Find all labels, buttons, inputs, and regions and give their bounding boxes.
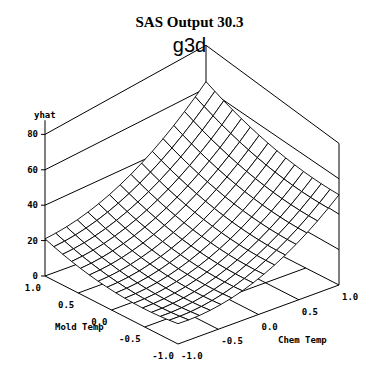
- chem-tick-label: 0.5: [302, 307, 318, 317]
- chem-tick-label: 1.0: [342, 292, 358, 302]
- z-tick-label: 80: [27, 129, 38, 139]
- chem-tick-label: -0.5: [221, 336, 243, 346]
- mold-tick-label: 0.5: [58, 300, 74, 310]
- surface-plot: yhat0204060801.00.50.0-0.5-1.0-1.0-0.50.…: [0, 0, 379, 385]
- z-tick-label: 60: [27, 165, 38, 175]
- z-axis-label: yhat: [34, 110, 56, 120]
- chem-tick-label: 0.0: [262, 322, 278, 332]
- mold-tick-label: -1.0: [152, 351, 174, 361]
- chem-axis-title: Chem Temp: [278, 335, 327, 345]
- surface-mesh: [45, 82, 339, 324]
- mold-tick-label: -0.5: [119, 334, 141, 344]
- z-tick-label: 40: [27, 200, 38, 210]
- mold-tick-label: 1.0: [25, 283, 41, 293]
- mold-axis-title: Mold Temp: [55, 322, 104, 332]
- z-tick-label: 20: [27, 236, 38, 246]
- z-tick-label: 0: [33, 271, 38, 281]
- chem-tick-label: -1.0: [181, 351, 203, 361]
